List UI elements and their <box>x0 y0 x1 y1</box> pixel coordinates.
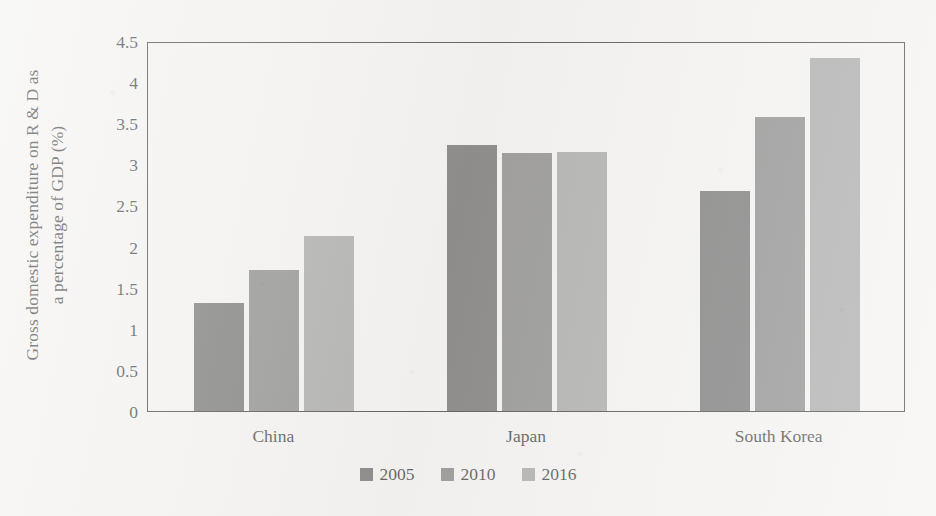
legend-label-2016: 2016 <box>542 466 577 484</box>
y-tick-label: 3.5 <box>116 114 138 135</box>
legend-label-2005: 2005 <box>380 466 415 484</box>
bar-china-2005 <box>194 303 244 411</box>
bar-japan-2005 <box>447 145 497 411</box>
bar-china-2016 <box>304 236 354 411</box>
y-axis-title-line-2: a percentage of GDP (%) <box>45 69 70 360</box>
y-tick-label: 0 <box>129 402 138 423</box>
plot-area <box>147 42 905 412</box>
y-axis-title: Gross domestic expenditure on R & D as a… <box>14 0 76 430</box>
legend-item-2010: 2010 <box>441 466 496 484</box>
bar-south-korea-2016 <box>810 58 860 411</box>
bar-chart-figure: Gross domestic expenditure on R & D as a… <box>0 0 936 516</box>
bars-layer <box>148 43 904 411</box>
y-tick-label: 0.5 <box>116 360 138 381</box>
y-tick-label: 2 <box>129 237 138 258</box>
bar-south-korea-2010 <box>755 117 805 411</box>
bar-japan-2016 <box>557 152 607 411</box>
y-tick-label: 1 <box>129 319 138 340</box>
legend-item-2005: 2005 <box>360 466 415 484</box>
legend-label-2010: 2010 <box>461 466 496 484</box>
y-tick-label: 3 <box>129 155 138 176</box>
bar-japan-2010 <box>502 153 552 411</box>
x-category-label-japan: Japan <box>506 426 546 447</box>
legend-swatch-2016 <box>522 468 535 481</box>
y-axis-tick-labels: 00.511.522.533.544.5 <box>86 42 138 412</box>
bar-south-korea-2005 <box>700 191 750 411</box>
x-category-label-china: China <box>252 426 294 447</box>
y-tick-label: 1.5 <box>116 278 138 299</box>
legend-swatch-2005 <box>360 468 373 481</box>
chart-legend: 200520102016 <box>0 466 936 484</box>
legend-swatch-2010 <box>441 468 454 481</box>
y-axis-title-line-1: Gross domestic expenditure on R & D as <box>20 69 45 360</box>
legend-item-2016: 2016 <box>522 466 577 484</box>
bar-china-2010 <box>249 270 299 411</box>
x-axis-category-labels: ChinaJapanSouth Korea <box>147 418 905 452</box>
y-tick-label: 4 <box>129 73 138 94</box>
x-category-label-south-korea: South Korea <box>735 426 823 447</box>
y-tick-label: 4.5 <box>116 32 138 53</box>
y-tick-label: 2.5 <box>116 196 138 217</box>
